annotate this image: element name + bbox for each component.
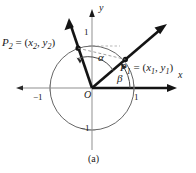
figure-graphics — [0, 0, 196, 173]
angle-label-alpha: α — [98, 52, 104, 63]
x-axis-label: x — [178, 70, 182, 80]
tick-label-x-positive-one: 1 — [134, 93, 139, 102]
angle-label-beta: β — [117, 73, 122, 84]
figure-caption: (a) — [88, 154, 99, 164]
point-label-p1: P1 = (x1, y1) — [120, 62, 173, 76]
p1-comma: , — [155, 61, 158, 73]
p1-subscript: 1 — [127, 67, 131, 76]
origin-label: O — [84, 90, 91, 100]
y-axis-label: y — [99, 3, 103, 13]
y-axis-arrowhead — [89, 9, 95, 17]
x-axis-right-arrowhead — [167, 84, 177, 92]
p2-comma: , — [37, 36, 40, 48]
p2-subscript: 2 — [9, 42, 13, 51]
unit-circle-figure: P2 = (x2, y2) P1 = (x1, y1) x y O −1 1 1… — [0, 0, 196, 173]
p1-equals: = — [133, 61, 139, 73]
point-label-p2: P2 = (x2, y2) — [2, 37, 55, 51]
tick-label-y-positive-one: 1 — [84, 28, 89, 37]
p2-name: P — [2, 36, 9, 48]
x-axis-left-arrowhead — [16, 85, 23, 90]
p2-equals: = — [15, 36, 21, 48]
tick-label-x-negative-one: −1 — [33, 93, 43, 102]
tick-label-y-negative-one: −1 — [80, 124, 90, 133]
p2-close-paren: ) — [51, 36, 55, 48]
p1-close-paren: ) — [169, 61, 173, 73]
